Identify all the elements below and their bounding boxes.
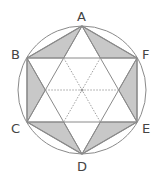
label-e: E <box>142 121 150 136</box>
hexagon-star-diagram: A B F C E D <box>0 0 160 181</box>
label-a: A <box>77 9 86 24</box>
triangle-ace <box>27 26 137 122</box>
label-f: F <box>142 47 149 62</box>
shaded-triangle-fe <box>119 58 137 122</box>
center-point <box>81 89 84 92</box>
triangle-bdf <box>27 58 137 154</box>
shaded-triangle-bc <box>27 58 45 122</box>
label-c: C <box>11 121 20 136</box>
label-b: B <box>11 47 20 62</box>
label-d: D <box>77 159 87 174</box>
